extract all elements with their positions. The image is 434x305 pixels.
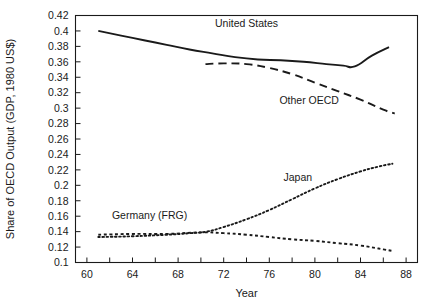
y-tick-label: 0.12: [48, 241, 69, 253]
y-tick-label: 0.36: [48, 56, 69, 68]
y-tick-label: 0.38: [48, 40, 69, 52]
y-tick-label: 0.32: [48, 86, 69, 98]
y-tick-label: 0.34: [48, 71, 69, 83]
plot-frame-group: [76, 16, 418, 263]
series-line-japan: [98, 164, 392, 237]
x-tick-label: 72: [218, 268, 230, 280]
y-tick-label: 0.42: [48, 9, 69, 21]
series-line-united-states: [98, 31, 389, 67]
series-label-other-oecd: Other OECD: [279, 94, 339, 106]
y-tick-label: 0.2: [54, 179, 69, 191]
plot-frame: [76, 16, 418, 263]
x-tick-label: 64: [127, 268, 139, 280]
y-tick-label: 0.14: [48, 225, 69, 237]
x-tick-label: 84: [355, 268, 367, 280]
x-tick-label: 60: [81, 268, 93, 280]
x-tick-label: 76: [263, 268, 275, 280]
share-of-oecd-output-line-chart: 0.10.120.140.160.180.20.220.240.260.280.…: [0, 0, 434, 305]
y-tick-label: 0.26: [48, 133, 69, 145]
x-tick-label: 80: [309, 268, 321, 280]
y-tick-label: 0.3: [54, 102, 69, 114]
y-tick-label: 0.24: [48, 148, 69, 160]
x-axis-ticks: 6064687276808488: [81, 258, 412, 280]
y-tick-label: 0.16: [48, 210, 69, 222]
series-inline-labels: United StatesOther OECDJapanGermany (FRG…: [112, 17, 339, 220]
chart-container: 0.10.120.140.160.180.20.220.240.260.280.…: [0, 0, 434, 305]
series-label-united-states: United States: [215, 17, 278, 29]
series-label-germany-frg: Germany (FRG): [112, 209, 187, 221]
x-tick-label: 88: [400, 268, 412, 280]
x-axis-title: Year: [235, 287, 258, 299]
y-tick-label: 0.28: [48, 117, 69, 129]
y-tick-label: 0.18: [48, 195, 69, 207]
series-label-japan: Japan: [283, 171, 312, 183]
x-tick-label: 68: [172, 268, 184, 280]
y-tick-label: 0.1: [54, 256, 69, 268]
y-tick-label: 0.4: [54, 25, 69, 37]
y-axis-title: Share of OECD Output (GDP, 1980 US$): [4, 39, 16, 239]
y-tick-label: 0.22: [48, 164, 69, 176]
